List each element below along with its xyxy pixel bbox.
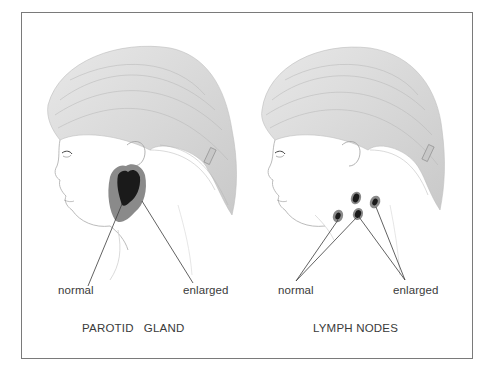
leader-lines-left [88, 201, 193, 286]
lymph-nodes [331, 190, 382, 224]
parotid-gland [108, 164, 146, 222]
label-normal-lymph: normal [278, 284, 314, 296]
child-head-right [262, 47, 445, 275]
label-enlarged-parotid: enlarged [183, 284, 229, 296]
leader-lines-right [296, 207, 405, 281]
label-enlarged-lymph: enlarged [393, 284, 439, 296]
illustration [0, 0, 492, 377]
caption-lymph-nodes: LYMPH NODES [313, 322, 398, 334]
caption-parotid-gland: PAROTID GLAND [82, 322, 184, 334]
label-normal-parotid: normal [58, 284, 94, 296]
child-head-left [48, 46, 237, 280]
